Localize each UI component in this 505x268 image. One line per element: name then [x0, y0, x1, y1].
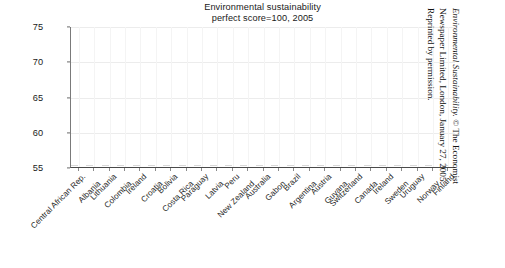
- x-gridline: [310, 27, 311, 167]
- x-tick-label: Latvia: [204, 179, 226, 201]
- x-tick-mark: [309, 168, 310, 171]
- x-gridline: [125, 27, 126, 167]
- x-tick-mark: [355, 168, 356, 171]
- x-tick-mark: [139, 168, 140, 171]
- y-tick-label: 70: [33, 57, 43, 67]
- x-tick-mark: [109, 168, 110, 171]
- x-tick-mark: [201, 168, 202, 171]
- x-tick-mark: [278, 168, 279, 171]
- x-tick-mark: [417, 168, 418, 171]
- x-tick-mark: [124, 168, 125, 171]
- x-tick-mark: [170, 168, 171, 171]
- x-tick-mark: [93, 168, 94, 171]
- x-gridline: [202, 27, 203, 167]
- y-tick-label: 55: [33, 163, 43, 173]
- x-gridline: [187, 27, 188, 167]
- plot-area: [70, 27, 455, 168]
- x-tick-mark: [247, 168, 248, 171]
- x-gridline: [79, 27, 80, 167]
- x-tick-mark: [324, 168, 325, 171]
- x-tick-mark: [293, 168, 294, 171]
- x-gridline: [217, 27, 218, 167]
- x-gridline: [418, 27, 419, 167]
- chart-title-line-1: Environmental sustainability: [70, 2, 455, 13]
- x-gridline: [233, 27, 234, 167]
- x-axis: Central African Rep.AlbaniaLithuaniaColo…: [70, 168, 455, 268]
- x-gridline: [156, 27, 157, 167]
- x-gridline: [279, 27, 280, 167]
- x-tick-mark: [216, 168, 217, 171]
- x-gridline: [94, 27, 95, 167]
- x-gridline: [387, 27, 388, 167]
- y-tick-label: 65: [33, 93, 43, 103]
- source-credit: Environmental Sustainability. © The Econ…: [422, 8, 462, 260]
- x-tick-label: Central African Rep.: [29, 172, 87, 230]
- credit-line-1: Environmental Sustainability. © The Econ…: [449, 8, 462, 260]
- x-gridline: [402, 27, 403, 167]
- x-gridline: [248, 27, 249, 167]
- x-gridline: [264, 27, 265, 167]
- x-tick-mark: [232, 168, 233, 171]
- x-gridline: [356, 27, 357, 167]
- x-gridline: [341, 27, 342, 167]
- x-gridline: [140, 27, 141, 167]
- chart-title: Environmental sustainability perfect sco…: [70, 2, 455, 24]
- credit-line-1-rest: © The Economist: [451, 117, 461, 184]
- credit-publication-title: Environmental Sustainability.: [451, 8, 461, 117]
- x-tick-mark: [155, 168, 156, 171]
- x-gridline: [371, 27, 372, 167]
- x-tick-mark: [386, 168, 387, 171]
- x-tick-mark: [401, 168, 402, 171]
- x-tick-mark: [370, 168, 371, 171]
- x-tick-label: Peru: [222, 172, 241, 191]
- plot-inner: [71, 27, 455, 167]
- x-tick-mark: [78, 168, 79, 171]
- x-tick-mark: [186, 168, 187, 171]
- x-tick-mark: [340, 168, 341, 171]
- y-tick-label: 60: [33, 128, 43, 138]
- chart-title-line-2: perfect score=100, 2005: [70, 13, 455, 24]
- x-tick-mark: [263, 168, 264, 171]
- credit-line-2: Newspaper Limited, London, January 27, 2…: [437, 8, 450, 260]
- y-tick-label: 75: [33, 22, 43, 32]
- x-gridline: [294, 27, 295, 167]
- x-gridline: [110, 27, 111, 167]
- x-gridline: [325, 27, 326, 167]
- credit-line-3: Reprinted by permission.: [424, 8, 437, 260]
- x-gridline: [171, 27, 172, 167]
- chart-figure: Environmental sustainability perfect sco…: [0, 0, 505, 268]
